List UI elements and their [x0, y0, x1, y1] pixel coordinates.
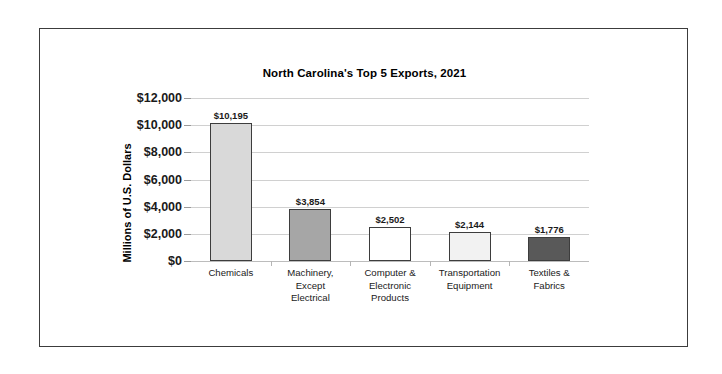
- x-axis-tick: [430, 261, 431, 266]
- x-axis-category-label: Textiles &Fabrics: [502, 267, 596, 292]
- bar: [369, 227, 411, 261]
- y-axis-tick-label: $6,000: [96, 173, 182, 187]
- y-axis-tick-label: $4,000: [96, 200, 182, 214]
- bar: [449, 232, 491, 261]
- chart-title: North Carolina's Top 5 Exports, 2021: [40, 67, 689, 79]
- bar-value-label: $1,776: [535, 224, 564, 235]
- y-axis-tick: [184, 98, 191, 99]
- y-axis-tick-label: $8,000: [96, 145, 182, 159]
- plot-area: [191, 98, 589, 261]
- y-axis-tick: [184, 207, 191, 208]
- bar: [528, 237, 570, 261]
- bar-value-label: $2,502: [375, 214, 404, 225]
- gridline: [191, 98, 589, 99]
- bar-value-label: $3,854: [296, 196, 325, 207]
- bar: [210, 123, 252, 261]
- x-axis-category-line: Textiles &: [502, 267, 596, 280]
- x-axis-tick: [509, 261, 510, 266]
- bar-value-label: $2,144: [455, 219, 484, 230]
- y-axis-tick: [184, 180, 191, 181]
- y-axis-tick: [184, 125, 191, 126]
- y-axis-tick-label: $2,000: [96, 227, 182, 241]
- y-axis-tick: [184, 234, 191, 235]
- x-axis-tick: [350, 261, 351, 266]
- y-axis-tick: [184, 261, 191, 262]
- y-axis-tick-label: $10,000: [96, 118, 182, 132]
- chart-figure-frame: North Carolina's Top 5 Exports, 2021 Mil…: [39, 28, 688, 347]
- x-axis-category-line: Products: [343, 292, 437, 305]
- x-axis-tick: [271, 261, 272, 266]
- gridline: [191, 261, 589, 262]
- x-axis-category-line: Fabrics: [502, 280, 596, 293]
- y-axis-tick: [184, 152, 191, 153]
- y-axis-tick-label: $12,000: [96, 91, 182, 105]
- y-axis-tick-label: $0: [96, 254, 182, 268]
- bar: [289, 209, 331, 261]
- bar-value-label: $10,195: [214, 110, 248, 121]
